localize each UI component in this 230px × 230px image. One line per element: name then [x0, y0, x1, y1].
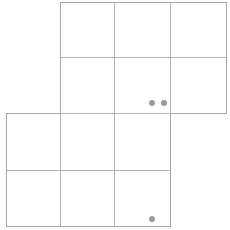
grid-board[interactable] — [0, 0, 230, 230]
cell-r3-c2[interactable] — [114, 170, 170, 226]
cell-r0-c1[interactable] — [60, 2, 114, 57]
cell-r2-c2[interactable] — [114, 113, 170, 170]
cell-r1-c1[interactable] — [60, 57, 114, 113]
token-dot-2[interactable] — [161, 100, 167, 106]
cell-r3-c1[interactable] — [60, 170, 114, 226]
cell-r3-c0[interactable] — [6, 170, 60, 226]
cell-r2-c0[interactable] — [6, 113, 60, 170]
board-canvas — [0, 0, 230, 230]
cell-r1-c3[interactable] — [170, 57, 226, 113]
cell-fills — [6, 2, 226, 226]
token-dot-3[interactable] — [149, 216, 155, 222]
cell-r0-c3[interactable] — [170, 2, 226, 57]
cell-r2-c1[interactable] — [60, 113, 114, 170]
token-dot-1[interactable] — [149, 100, 155, 106]
cell-r0-c2[interactable] — [114, 2, 170, 57]
